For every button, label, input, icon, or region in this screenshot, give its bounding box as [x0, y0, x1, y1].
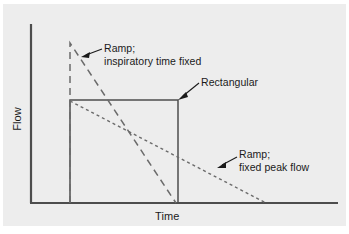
leader-arrow-ramp-inspiratory [81, 49, 102, 58]
waveform-chart [0, 0, 349, 234]
annotation-ramp-inspiratory-time-fixed: Ramp; inspiratory time fixed [104, 42, 201, 67]
annotation-ramp-inspiratory-line-1: Ramp; [104, 42, 201, 55]
annotation-ramp-inspiratory-line-2: inspiratory time fixed [104, 55, 201, 68]
series-ramp-fixed-peak-flow [70, 101, 266, 203]
series-rectangular [70, 100, 178, 203]
y-axis-label: Flow [11, 97, 23, 141]
annotation-ramp-fixed-peak-line-2: fixed peak flow [239, 161, 309, 174]
figure-root: Flow Time Ramp; inspiratory time fixed R… [0, 0, 349, 234]
annotation-rectangular-line-1: Rectangular [201, 76, 258, 89]
x-axis-label: Time [155, 210, 179, 222]
leader-arrow-rectangular [178, 83, 199, 100]
series-ramp-inspiratory-time-fixed [70, 43, 176, 203]
annotation-ramp-fixed-peak-line-1: Ramp; [239, 148, 309, 161]
annotation-rectangular: Rectangular [201, 76, 258, 89]
leader-arrow-ramp-fixed-peak-flow [217, 157, 237, 168]
annotation-ramp-fixed-peak-flow: Ramp; fixed peak flow [239, 148, 309, 173]
